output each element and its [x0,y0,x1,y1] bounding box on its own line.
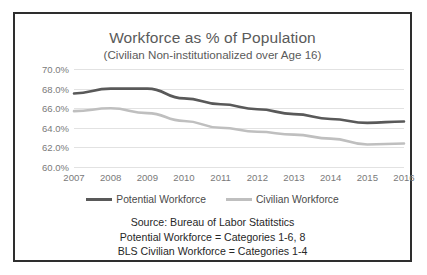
chart-inner: Workforce as % of Population (Civilian N… [15,14,410,260]
legend-label: Civilian Workforce [256,194,339,205]
x-tick-label: 2014 [311,172,351,183]
chart-legend: Potential WorkforceCivilian Workforce [15,194,410,205]
legend-swatch [86,198,112,201]
x-tick-label: 2013 [274,172,314,183]
x-tick-label: 2010 [164,172,204,183]
series-line [74,89,404,123]
x-tick-label: 2008 [91,172,131,183]
gridline [74,167,404,168]
y-tick-label: 66.0% [25,103,69,114]
chart-subtitle: (Civilian Non-institutionalized over Age… [15,48,410,61]
chart-footnotes: Source: Bureau of Labor StatitsticsPoten… [15,215,410,259]
x-tick-label: 2016 [384,172,424,183]
x-tick-label: 2015 [347,172,387,183]
series-lines [74,69,404,167]
footnote-line: BLS Civilian Workforce = Categories 1-4 [15,244,410,259]
chart-title: Workforce as % of Population [15,29,410,47]
legend-swatch [226,198,252,201]
series-line [74,108,404,144]
plot-area [74,69,404,167]
y-tick-label: 60.0% [25,162,69,173]
y-axis-labels: 70.0%68.0%66.0%64.0%62.0%60.0% [21,69,69,167]
x-axis-labels: 2007200820092010201120122013201420152016 [74,172,404,186]
y-tick-label: 68.0% [25,83,69,94]
chart-frame: Workforce as % of Population (Civilian N… [13,12,412,262]
y-tick-label: 70.0% [25,64,69,75]
footnote-line: Potential Workforce = Categories 1-6, 8 [15,230,410,245]
x-tick-label: 2011 [201,172,241,183]
legend-entry[interactable]: Civilian Workforce [226,194,339,205]
footnote-line: Source: Bureau of Labor Statitstics [15,215,410,230]
x-tick-label: 2009 [127,172,167,183]
x-tick-label: 2007 [54,172,94,183]
chart-figure: Workforce as % of Population (Civilian N… [0,0,427,275]
x-tick-label: 2012 [237,172,277,183]
legend-entry[interactable]: Potential Workforce [86,194,206,205]
y-tick-label: 62.0% [25,142,69,153]
y-tick-label: 64.0% [25,122,69,133]
legend-label: Potential Workforce [116,194,206,205]
